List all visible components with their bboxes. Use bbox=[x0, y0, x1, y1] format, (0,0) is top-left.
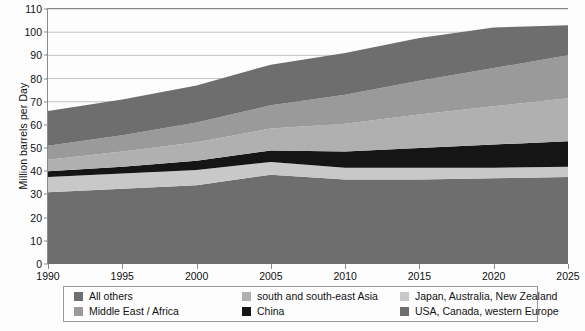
legend-item[interactable]: China bbox=[242, 306, 400, 317]
legend-swatch-icon bbox=[242, 292, 251, 301]
area-series-group bbox=[48, 25, 568, 264]
y-tick-mark bbox=[44, 9, 48, 10]
y-tick-label: 30 bbox=[30, 188, 42, 200]
stacked-area-svg bbox=[48, 9, 568, 264]
legend-label: All others bbox=[89, 291, 133, 302]
chart-figure: Million barrels per Day 0102030405060708… bbox=[0, 0, 585, 331]
y-tick-mark bbox=[44, 78, 48, 79]
y-tick-mark bbox=[44, 217, 48, 218]
legend-item[interactable]: All others bbox=[74, 291, 242, 302]
y-tick-mark bbox=[44, 101, 48, 102]
y-tick-mark bbox=[44, 194, 48, 195]
y-tick-mark bbox=[44, 240, 48, 241]
y-tick-label: 80 bbox=[30, 73, 42, 85]
x-tick-label: 2025 bbox=[556, 270, 579, 282]
y-tick-mark bbox=[44, 32, 48, 33]
y-tick-label: 60 bbox=[30, 119, 42, 131]
y-tick-mark bbox=[44, 171, 48, 172]
x-tick-mark bbox=[419, 264, 420, 269]
x-tick-mark bbox=[345, 264, 346, 269]
x-tick-mark bbox=[271, 264, 272, 269]
x-tick-mark bbox=[568, 264, 569, 269]
x-tick-label: 1990 bbox=[36, 270, 59, 282]
legend-swatch-icon bbox=[242, 307, 251, 316]
x-tick-label: 2020 bbox=[482, 270, 505, 282]
y-tick-label: 100 bbox=[24, 26, 42, 38]
x-tick-label: 2010 bbox=[333, 270, 356, 282]
legend-item[interactable]: south and south-east Asia bbox=[242, 291, 400, 302]
x-tick-mark bbox=[122, 264, 123, 269]
plot-area: 0102030405060708090100110 19901995200020… bbox=[47, 8, 568, 264]
y-tick-label: 110 bbox=[25, 3, 42, 15]
x-tick-label: 2000 bbox=[185, 270, 208, 282]
x-tick-mark bbox=[48, 264, 49, 269]
legend-item[interactable]: Japan, Australia, New Zealand bbox=[400, 291, 559, 302]
y-tick-label: 0 bbox=[36, 258, 42, 270]
x-tick-mark bbox=[197, 264, 198, 269]
legend-item[interactable]: USA, Canada, western Europe bbox=[400, 306, 559, 317]
legend-swatch-icon bbox=[74, 307, 83, 316]
y-axis-title: Million barrels per Day bbox=[17, 51, 29, 221]
y-tick-label: 70 bbox=[30, 96, 42, 108]
y-tick-label: 90 bbox=[30, 49, 42, 61]
x-tick-label: 2015 bbox=[408, 270, 431, 282]
legend-item[interactable]: Middle East / Africa bbox=[74, 306, 242, 317]
y-tick-label: 40 bbox=[30, 165, 42, 177]
y-tick-label: 50 bbox=[30, 142, 42, 154]
y-tick-mark bbox=[44, 148, 48, 149]
x-tick-label: 1995 bbox=[111, 270, 134, 282]
chart-legend: All otherssouth and south-east AsiaJapan… bbox=[63, 286, 538, 322]
x-tick-mark bbox=[494, 264, 495, 269]
legend-swatch-icon bbox=[74, 292, 83, 301]
legend-label: Japan, Australia, New Zealand bbox=[415, 291, 557, 302]
y-tick-label: 10 bbox=[30, 235, 42, 247]
legend-swatch-icon bbox=[400, 307, 409, 316]
x-tick-label: 2005 bbox=[259, 270, 282, 282]
y-tick-mark bbox=[44, 55, 48, 56]
y-tick-label: 20 bbox=[30, 212, 42, 224]
legend-label: Middle East / Africa bbox=[89, 306, 179, 317]
legend-label: China bbox=[257, 306, 284, 317]
y-tick-mark bbox=[44, 124, 48, 125]
legend-swatch-icon bbox=[400, 292, 409, 301]
legend-label: USA, Canada, western Europe bbox=[415, 306, 559, 317]
legend-label: south and south-east Asia bbox=[257, 291, 378, 302]
